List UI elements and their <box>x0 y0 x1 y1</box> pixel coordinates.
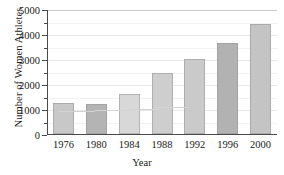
x-tick-label: 1996 <box>217 139 238 150</box>
x-axis-title: Year <box>0 157 284 168</box>
gridline-minor <box>48 23 277 24</box>
bar <box>250 24 271 134</box>
bar <box>86 104 107 134</box>
x-tick-label: 1976 <box>53 139 74 150</box>
x-tick-label: 1988 <box>152 139 173 150</box>
y-tick-label: 5000 <box>0 5 40 16</box>
y-tick-label: 4000 <box>0 30 40 41</box>
x-tick-label: 1992 <box>184 139 205 150</box>
bar <box>184 59 205 134</box>
bar <box>53 103 74 134</box>
bar <box>217 43 238 134</box>
y-tick-major <box>42 135 47 136</box>
y-tick-label: 0 <box>0 130 40 141</box>
chart-figure: Number of Women Athletes 010002000300040… <box>0 0 284 175</box>
y-tick-label: 1000 <box>0 105 40 116</box>
y-tick-label: 3000 <box>0 55 40 66</box>
bar <box>119 94 140 134</box>
plot-area <box>47 10 277 135</box>
gridline-major <box>48 35 277 36</box>
y-axis-title: Number of Women Athletes <box>13 0 24 138</box>
y-axis-line <box>47 10 48 135</box>
gridline-major <box>48 60 277 61</box>
x-tick-label: 1984 <box>119 139 140 150</box>
plot-top-border <box>47 10 277 11</box>
bar <box>152 73 173 134</box>
gridline-minor <box>48 48 277 49</box>
x-tick-label: 2000 <box>250 139 271 150</box>
x-axis-line <box>47 134 277 135</box>
x-tick-label: 1980 <box>86 139 107 150</box>
y-tick-label: 2000 <box>0 80 40 91</box>
